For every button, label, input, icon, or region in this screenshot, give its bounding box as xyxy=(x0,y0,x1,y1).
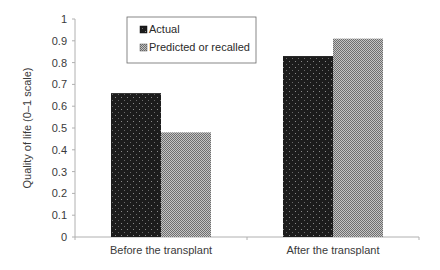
y-axis-title: Quality of life (0–1 scale) xyxy=(21,67,33,188)
legend-label-actual: Actual xyxy=(149,23,180,35)
x-category-label: Before the transplant xyxy=(110,244,212,256)
bar-actual xyxy=(111,93,161,237)
y-tick-label: 0.5 xyxy=(52,122,67,134)
y-tick-label: 0.8 xyxy=(52,57,67,69)
y-tick-label: 0 xyxy=(61,231,67,243)
bar-predicted xyxy=(333,39,383,237)
bar-predicted xyxy=(161,132,211,237)
y-tick-label: 1 xyxy=(61,13,67,25)
bars xyxy=(111,39,383,237)
y-tick-label: 0.4 xyxy=(52,144,67,156)
y-tick-label: 0.3 xyxy=(52,166,67,178)
legend-swatch-actual xyxy=(140,26,147,33)
y-tick-label: 0.9 xyxy=(52,35,67,47)
legend-label-predicted: Predicted or recalled xyxy=(149,41,250,53)
y-tick-label: 0.1 xyxy=(52,209,67,221)
y-tick-label: 0.2 xyxy=(52,187,67,199)
bar-chart: 00.10.20.30.40.50.60.70.80.91 Before the… xyxy=(0,0,440,270)
x-category-label: After the transplant xyxy=(287,244,380,256)
y-tick-label: 0.7 xyxy=(52,78,67,90)
bar-actual xyxy=(283,56,333,237)
x-axis: Before the transplantAfter the transplan… xyxy=(75,237,419,256)
y-axis: 00.10.20.30.40.50.60.70.80.91 xyxy=(52,13,75,243)
legend-swatch-predicted xyxy=(140,44,147,51)
y-tick-label: 0.6 xyxy=(52,100,67,112)
legend: Actual Predicted or recalled xyxy=(127,17,256,63)
